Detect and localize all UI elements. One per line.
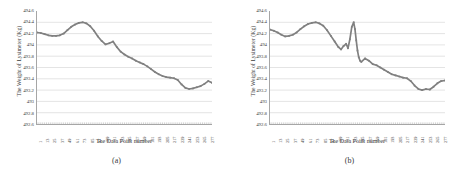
data-marker [124, 54, 126, 56]
data-marker [162, 75, 164, 77]
figure-panels-row: The Weight of Lysimeter (Kg) 494.6494.44… [0, 0, 466, 179]
y-tick-label: 493.4 [23, 77, 34, 82]
data-marker [395, 75, 397, 77]
data-marker [82, 21, 84, 23]
data-marker [185, 87, 187, 89]
data-marker [59, 34, 61, 36]
data-marker [48, 34, 50, 36]
data-marker [330, 35, 332, 37]
data-marker [349, 38, 351, 40]
data-marker [402, 77, 404, 79]
data-marker [44, 33, 46, 35]
x-axis-title-a: The Data Point number [36, 138, 212, 144]
y-tick-label: 492.8 [23, 111, 34, 116]
panel-caption-b: (b) [233, 156, 466, 165]
data-marker [387, 71, 389, 73]
data-marker [173, 77, 175, 79]
data-marker [166, 76, 168, 78]
data-marker [116, 46, 118, 48]
data-marker [86, 23, 88, 25]
data-marker [89, 25, 91, 27]
data-marker [345, 43, 347, 45]
chart-panel-a: The Weight of Lysimeter (Kg) 494.6494.44… [0, 0, 233, 179]
y-tick-label: 493.6 [256, 66, 267, 71]
data-marker [97, 36, 99, 38]
data-marker [429, 89, 431, 91]
data-marker [326, 29, 328, 31]
data-marker [70, 26, 72, 28]
data-marker [376, 64, 378, 66]
data-marker [108, 42, 110, 44]
y-tick-label: 492.6 [256, 123, 267, 128]
data-marker [391, 73, 393, 75]
data-marker [74, 24, 76, 26]
y-tick-label: 493.8 [23, 54, 34, 59]
data-marker [284, 36, 286, 38]
data-marker [437, 82, 439, 84]
data-marker [139, 62, 141, 64]
y-tick-label: 494 [27, 43, 34, 48]
data-marker [368, 60, 370, 62]
data-marker [192, 88, 194, 90]
y-axis-tick-labels-a: 494.6494.4494.2494493.8493.6493.4493.249… [8, 9, 34, 125]
y-tick-label: 493.4 [256, 77, 267, 82]
data-marker [334, 41, 336, 43]
y-tick-label: 493.2 [23, 88, 34, 93]
plot-svg-a [37, 11, 212, 124]
plot-area-b [269, 11, 445, 125]
data-marker [296, 32, 298, 34]
data-marker [353, 21, 355, 23]
chart-b: The Weight of Lysimeter (Kg) 494.6494.44… [233, 0, 466, 150]
data-marker [211, 82, 212, 84]
data-marker [383, 69, 385, 71]
y-tick-label: 493 [260, 100, 267, 105]
data-marker [101, 40, 103, 42]
data-marker [360, 61, 362, 63]
data-marker [288, 35, 290, 37]
y-tick-label: 493 [27, 100, 34, 105]
data-marker [146, 66, 148, 68]
plot-svg-b [270, 11, 445, 124]
data-marker [355, 40, 357, 42]
plot-area-a [36, 11, 212, 125]
data-marker [292, 34, 294, 36]
data-marker [319, 23, 321, 25]
data-marker [181, 84, 183, 86]
data-marker [406, 77, 408, 79]
data-marker [425, 88, 427, 90]
data-marker [357, 50, 359, 52]
data-marker [354, 28, 356, 30]
y-axis-tick-labels-b: 494.6494.4494.2494493.8493.6493.4493.249… [241, 9, 267, 125]
y-tick-label: 494.6 [23, 9, 34, 14]
y-tick-label: 493.8 [256, 54, 267, 59]
data-marker [37, 32, 38, 34]
data-marker [322, 25, 324, 27]
data-marker [338, 46, 340, 48]
data-marker [433, 86, 435, 88]
data-marker [421, 89, 423, 91]
chart-panel-b: The Weight of Lysimeter (Kg) 494.6494.44… [233, 0, 466, 179]
data-marker [351, 26, 353, 28]
y-tick-label: 494 [260, 43, 267, 48]
data-marker [131, 58, 133, 60]
data-marker [307, 23, 309, 25]
data-marker [105, 43, 107, 45]
data-marker [40, 32, 42, 34]
data-marker [358, 56, 360, 58]
data-marker [177, 79, 179, 81]
data-marker [135, 60, 137, 62]
data-marker [414, 85, 416, 87]
data-marker [277, 32, 279, 34]
data-marker [188, 88, 190, 90]
data-marker [399, 76, 401, 78]
data-marker [303, 25, 305, 27]
panel-caption-a: (a) [0, 156, 233, 165]
data-marker [379, 67, 381, 69]
y-tick-label: 494.2 [23, 31, 34, 36]
data-marker [127, 56, 129, 58]
data-marker [204, 83, 206, 85]
data-marker [154, 71, 156, 73]
data-marker [364, 58, 366, 60]
data-marker [51, 35, 53, 37]
data-marker [158, 73, 160, 75]
